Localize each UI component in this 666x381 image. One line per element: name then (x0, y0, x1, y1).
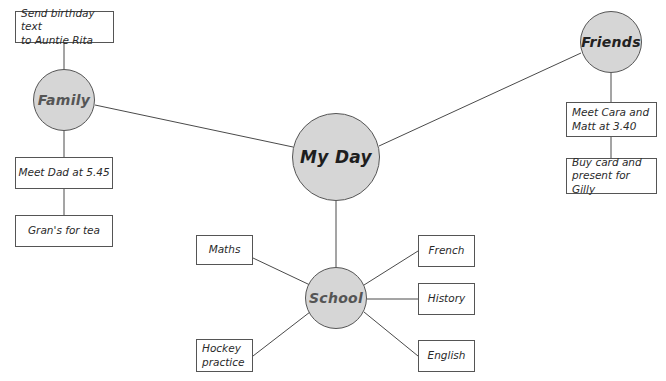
item-box-english: English (418, 340, 475, 372)
connector-my-day-family (95, 105, 293, 147)
branch-node-school: School (305, 267, 367, 329)
item-label: Meet Cara and Matt at 3.40 (572, 106, 649, 132)
central-node-label: My Day (300, 147, 372, 167)
item-label: Gran's for tea (28, 224, 100, 237)
connector-school-english (364, 312, 418, 356)
item-label: Maths (209, 243, 241, 256)
branch-node-family: Family (33, 69, 95, 131)
mind-map-canvas: My Day Family Friends School Send birthd… (0, 0, 666, 381)
item-box-grans-for-tea: Gran's for tea (15, 215, 113, 247)
connector-school-maths (253, 258, 310, 285)
item-label: English (428, 349, 466, 362)
item-label: Buy card and present for Gilly (572, 156, 656, 195)
branch-label-family: Family (38, 92, 91, 108)
item-box-history: History (418, 283, 475, 315)
item-label: Send birthday text to Auntie Rita (21, 7, 113, 46)
branch-label-school: School (309, 290, 363, 306)
item-label: Meet Dad at 5.45 (18, 166, 109, 179)
branch-node-friends: Friends (580, 11, 642, 73)
item-label: History (428, 292, 465, 305)
item-label: French (429, 244, 465, 257)
item-box-hockey-practice: Hockey practice (196, 339, 253, 372)
item-box-french: French (418, 235, 475, 267)
connector-my-day-friends (379, 53, 581, 146)
connector-school-french (364, 251, 418, 285)
central-node-my-day: My Day (292, 113, 380, 201)
item-box-meet-cara-matt: Meet Cara and Matt at 3.40 (566, 102, 657, 137)
item-box-maths: Maths (196, 235, 253, 265)
item-box-buy-card-present: Buy card and present for Gilly (566, 158, 657, 194)
branch-label-friends: Friends (581, 34, 641, 50)
item-box-send-birthday-text: Send birthday text to Auntie Rita (15, 11, 114, 43)
item-box-meet-dad: Meet Dad at 5.45 (15, 157, 113, 189)
connector-school-hockey-practice (253, 312, 310, 356)
item-label: Hockey practice (202, 342, 244, 368)
